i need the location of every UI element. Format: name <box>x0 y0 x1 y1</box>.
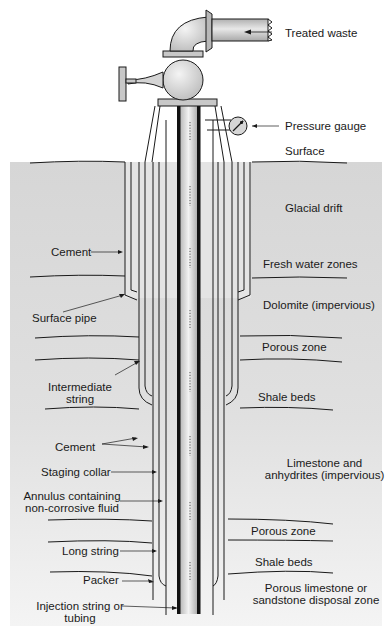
wellhead <box>119 10 272 106</box>
label-shale-beds-2: Shale beds <box>255 556 313 568</box>
label-disposal-line2: sandstone disposal zone <box>246 594 386 606</box>
label-intermediate-string: Intermediate string <box>45 381 115 405</box>
label-annulus-line1: Annulus containing <box>22 490 122 502</box>
label-limestone-line2: anhydrites (impervious) <box>262 469 387 481</box>
label-limestone-anhydrites: Limestone and anhydrites (impervious) <box>262 457 387 481</box>
label-porous-zone-1: Porous zone <box>262 341 327 353</box>
label-disposal-line1: Porous limestone or <box>246 582 386 594</box>
label-treated-waste: Treated waste <box>285 27 357 39</box>
label-injection-line1: Injection string or <box>30 600 130 612</box>
label-shale-beds-1: Shale beds <box>258 391 316 403</box>
label-limestone-line1: Limestone and <box>262 457 387 469</box>
label-long-string: Long string <box>62 545 119 557</box>
label-annulus: Annulus containing non-corrosive fluid <box>22 490 122 514</box>
label-dolomite: Dolomite (impervious) <box>263 299 375 311</box>
label-intermediate-line1: Intermediate <box>45 381 115 393</box>
label-porous-zone-2: Porous zone <box>251 525 316 537</box>
label-fresh-water-zones: Fresh water zones <box>263 258 358 270</box>
label-injection-string: Injection string or tubing <box>30 600 130 624</box>
label-annulus-line2: non-corrosive fluid <box>22 502 122 514</box>
label-intermediate-line2: string <box>45 393 115 405</box>
label-disposal-zone: Porous limestone or sandstone disposal z… <box>246 582 386 606</box>
label-surface-pipe: Surface pipe <box>32 312 97 324</box>
label-cement-lower: Cement <box>55 441 95 453</box>
label-injection-line2: tubing <box>30 612 130 624</box>
injection-tubing <box>177 106 201 614</box>
label-staging-collar: Staging collar <box>41 466 111 478</box>
label-surface: Surface <box>285 145 325 157</box>
label-cement-upper: Cement <box>51 246 91 258</box>
label-glacial-drift: Glacial drift <box>285 202 343 214</box>
label-pressure-gauge: Pressure gauge <box>285 120 366 132</box>
label-packer: Packer <box>83 574 119 586</box>
